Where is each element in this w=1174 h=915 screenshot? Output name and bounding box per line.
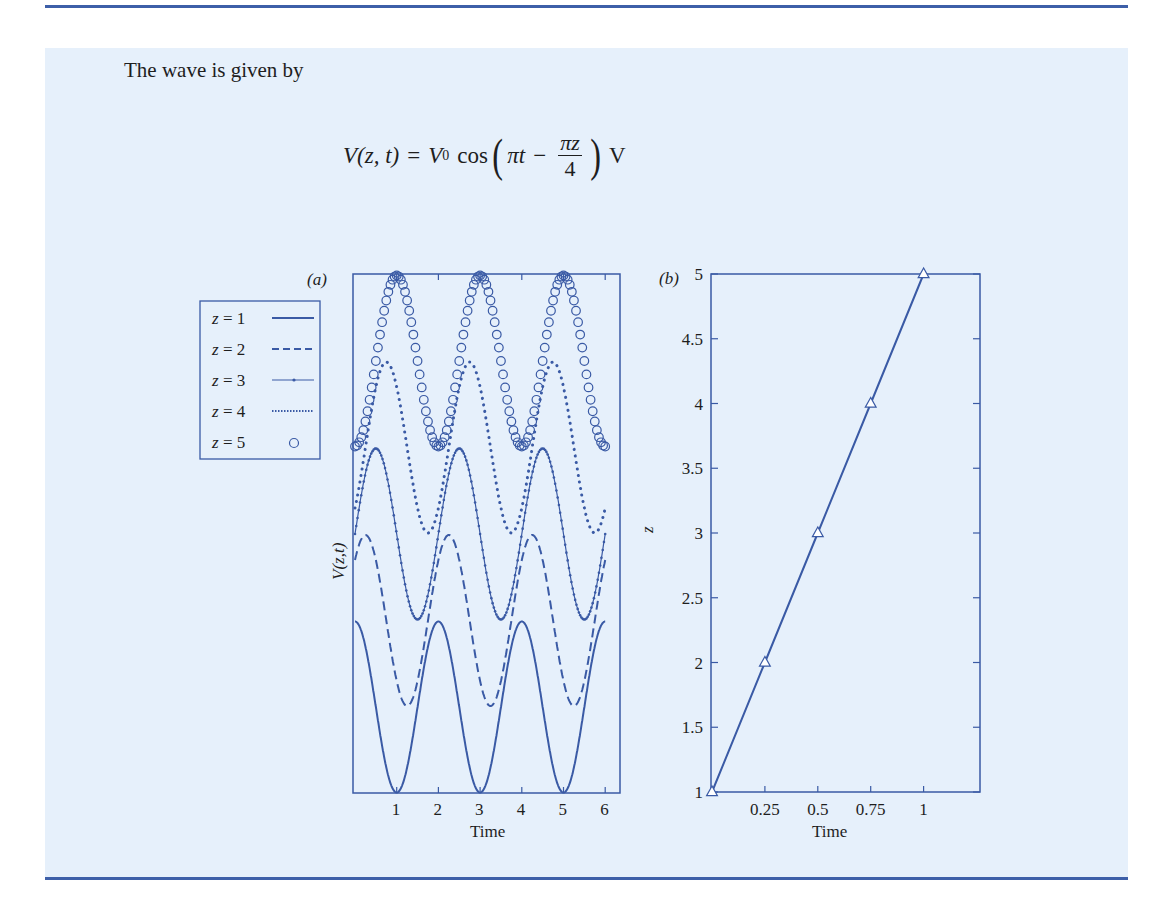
legend-label-z2: z = 2 <box>211 340 245 359</box>
x-tick-label: 0.25 <box>750 800 780 819</box>
y-tick-label: 3 <box>695 524 704 543</box>
triangle-marker <box>865 398 876 408</box>
x-tick-label: 4 <box>517 800 526 819</box>
x-tick-label: 5 <box>559 800 568 819</box>
panel-b-label: (b) <box>659 269 679 288</box>
y-tick-label: 3.5 <box>682 459 703 478</box>
x-tick-label: 0.75 <box>856 800 886 819</box>
legend: z = 1z = 2z = 3z = 4z = 5 <box>200 301 320 459</box>
y-tick-label: 5 <box>695 265 704 284</box>
panel-b-ylabel: z <box>638 526 657 534</box>
x-tick-label: 0.5 <box>807 800 828 819</box>
x-tick-label: 6 <box>600 800 609 819</box>
y-tick-label: 2.5 <box>682 589 703 608</box>
panel-b-ticks: 0.250.50.75111.522.533.544.55 <box>682 265 980 819</box>
x-tick-label: 3 <box>475 800 484 819</box>
panel-b-line <box>707 268 929 796</box>
chart-panel-a: (a) 123456 Time V(z,t) z = 1z = 2z = 3z … <box>200 270 620 841</box>
panel-b-frame <box>711 274 980 792</box>
y-tick-label: 2 <box>695 654 704 673</box>
legend-label-z4: z = 4 <box>211 402 246 421</box>
y-tick-label: 4 <box>695 395 704 414</box>
legend-label-z3: z = 3 <box>211 371 245 390</box>
triangle-marker <box>812 527 823 537</box>
legend-label-z1: z = 1 <box>211 309 245 328</box>
x-tick-label: 2 <box>433 800 442 819</box>
triangle-marker <box>760 657 771 667</box>
charts-canvas: (a) 123456 Time V(z,t) z = 1z = 2z = 3z … <box>0 0 1174 915</box>
triangle-marker <box>918 268 929 278</box>
y-tick-label: 4.5 <box>682 330 703 349</box>
x-tick-label: 1 <box>919 800 928 819</box>
series-z3-markers <box>354 447 607 621</box>
chart-panel-b: (b) 0.250.50.75111.522.533.544.55 Time z <box>638 265 980 841</box>
y-tick-label: 1 <box>695 783 704 802</box>
panel-a-label: (a) <box>307 270 327 289</box>
series-z1-line <box>355 622 605 793</box>
triangle-marker <box>707 786 718 796</box>
y-tick-label: 1.5 <box>682 718 703 737</box>
panel-a-curves <box>351 271 610 792</box>
legend-label-z5: z = 5 <box>211 433 245 452</box>
x-tick-label: 1 <box>392 800 401 819</box>
panel-a-x-ticks: 123456 <box>392 274 609 819</box>
panel-b-xlabel: Time <box>812 822 847 841</box>
panel-a-ylabel: V(z,t) <box>329 542 348 580</box>
panel-a-xlabel: Time <box>470 822 505 841</box>
legend-swatch-circle <box>290 439 299 448</box>
